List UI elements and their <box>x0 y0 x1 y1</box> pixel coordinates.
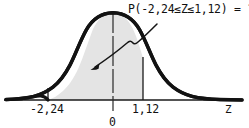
lower-bound-label: -2,24 <box>30 102 64 116</box>
upper-bound-label: 1,12 <box>132 102 159 116</box>
normal-distribution-figure: P(-2,24≤Z≤1,12) = ? -2,24 1,12 Z 0 <box>0 0 249 128</box>
axis-variable-label: Z <box>225 103 232 116</box>
mean-label: 0 <box>109 115 116 128</box>
probability-annotation: P(-2,24≤Z≤1,12) = ? <box>128 2 249 16</box>
shaded-probability-region <box>48 13 143 100</box>
